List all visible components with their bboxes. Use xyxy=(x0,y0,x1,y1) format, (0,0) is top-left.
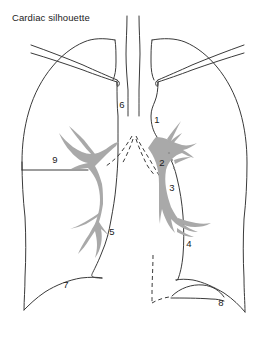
left-lung-outline xyxy=(22,39,115,310)
gastric-bubble-flat-line xyxy=(171,298,224,301)
right-apex-mediastinal-notch xyxy=(151,40,154,80)
hilar-dot-3 xyxy=(173,167,175,169)
label-5: 5 xyxy=(109,226,114,237)
label-7: 7 xyxy=(63,279,68,290)
hilar-dot-1 xyxy=(168,152,170,154)
right-hemidiaphragm-outline xyxy=(176,279,245,312)
right-clavicle-upper-border xyxy=(158,45,244,80)
diaphragm-dome-line xyxy=(172,285,224,297)
left-apex-mediastinal-notch xyxy=(113,40,116,80)
descending-aorta-dashed-line xyxy=(152,255,153,303)
hilar-dot-2 xyxy=(171,159,173,161)
figure-canvas: Cardiac silhouette xyxy=(0,0,274,344)
left-hilum-upper-branch xyxy=(167,121,182,145)
pulmonary-vasculature-right-lung xyxy=(59,133,118,258)
label-2: 2 xyxy=(159,157,164,168)
trachea-right-wall xyxy=(139,16,140,116)
label-1: 1 xyxy=(154,114,159,125)
cardiac-border-left-heart xyxy=(151,82,184,280)
label-3: 3 xyxy=(169,182,174,193)
label-9: 9 xyxy=(52,154,57,165)
label-6: 6 xyxy=(119,99,124,110)
trachea-left-wall xyxy=(126,16,128,116)
label-8: 8 xyxy=(218,297,223,308)
right-clavicle-lower-border xyxy=(158,53,244,82)
left-hilum-lateral-branch xyxy=(174,157,191,164)
diaphragm-dashed-continuation xyxy=(152,297,169,303)
cardiac-silhouette-diagram: 1 2 3 4 5 6 7 8 9 xyxy=(0,0,274,344)
cardiac-border-right-heart xyxy=(92,82,118,278)
left-clavicle-upper-border xyxy=(31,45,117,80)
label-4: 4 xyxy=(186,238,191,249)
